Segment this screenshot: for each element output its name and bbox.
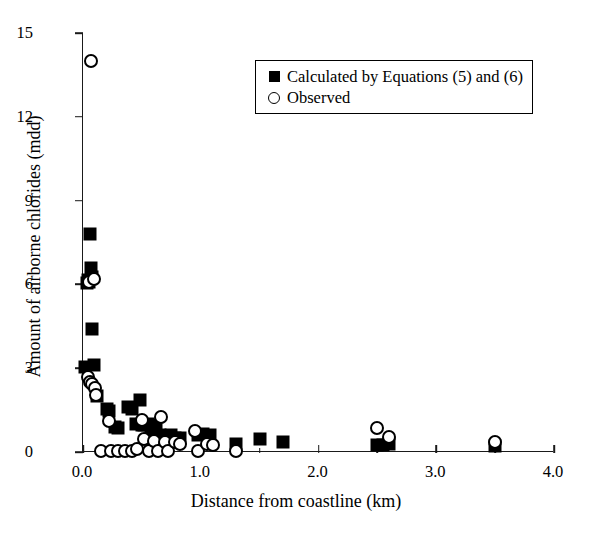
x-axis-title: Distance from coastline (km): [0, 491, 592, 512]
data-point-observed: [206, 438, 220, 452]
x-tick-label: 2.0: [307, 462, 328, 482]
x-tick-label: 4.0: [543, 462, 564, 482]
y-axis-tick: [75, 451, 83, 453]
y-tick-label: 3: [25, 358, 33, 378]
data-point-observed: [382, 430, 396, 444]
y-axis-tick: [75, 116, 83, 118]
data-point-calculated: [84, 228, 97, 241]
data-point-observed: [87, 272, 101, 286]
x-tick-label: 0.0: [72, 462, 93, 482]
data-point-observed: [173, 437, 187, 451]
legend-square-icon: [263, 71, 285, 82]
data-point-calculated: [86, 323, 99, 336]
legend-label: Calculated by Equations (5) and (6): [285, 67, 523, 87]
y-tick-label: 6: [25, 274, 33, 294]
data-point-observed: [154, 410, 168, 424]
data-point-observed: [84, 54, 98, 68]
legend-label: Observed: [285, 88, 350, 108]
marker-glyph: [268, 92, 280, 104]
y-tick-label: 12: [17, 107, 34, 127]
marker-glyph: [269, 71, 280, 82]
data-point-observed: [89, 388, 103, 402]
legend-entry: Calculated by Equations (5) and (6): [263, 66, 523, 87]
data-point-observed: [188, 424, 202, 438]
data-point-observed: [229, 444, 243, 458]
y-axis-tick: [75, 32, 83, 34]
data-point-observed: [135, 413, 149, 427]
x-axis-tick: [553, 445, 555, 453]
chart-figure: Amount of airborne chlorides (mdd) Dista…: [0, 0, 592, 539]
data-point-calculated: [133, 394, 146, 407]
data-point-observed: [488, 435, 502, 449]
x-tick-label: 1.0: [189, 462, 210, 482]
y-axis-tick: [75, 200, 83, 202]
data-point-calculated: [277, 436, 290, 449]
x-tick-label: 3.0: [425, 462, 446, 482]
y-tick-label: 0: [25, 442, 33, 462]
legend-circle-icon: [263, 92, 285, 104]
data-point-calculated: [253, 433, 266, 446]
chart-legend: Calculated by Equations (5) and (6)Obser…: [255, 60, 533, 114]
data-point-observed: [102, 414, 116, 428]
legend-entry: Observed: [263, 87, 523, 108]
y-tick-label: 9: [25, 191, 33, 211]
y-tick-label: 15: [17, 23, 34, 43]
y-axis-title: Amount of airborne chlorides (mdd): [24, 27, 45, 467]
